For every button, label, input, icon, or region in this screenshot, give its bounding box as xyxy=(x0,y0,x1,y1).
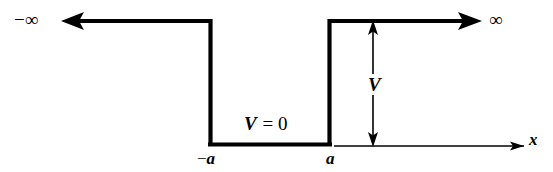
right-wall-position-label: a xyxy=(326,150,335,167)
left-wall-position-symbol: a xyxy=(207,149,216,168)
right-plateau-group xyxy=(330,12,482,30)
left-plateau-group xyxy=(61,12,209,30)
potential-well-drawing xyxy=(0,0,553,172)
negative-infinity-label: −∞ xyxy=(14,10,38,29)
left-wall-position-label: −a xyxy=(197,150,215,167)
well-depth-label: V xyxy=(366,74,383,95)
well-floor-value-label: V = 0 xyxy=(244,114,287,133)
positive-infinity-label: ∞ xyxy=(489,10,503,29)
left-wall-minus-sign: − xyxy=(197,149,207,168)
well-floor-value-symbol: V xyxy=(244,113,258,134)
x-axis-label: x xyxy=(529,131,538,148)
potential-well-figure: −∞ ∞ V = 0 V −a a x xyxy=(0,0,553,172)
x-axis-group xyxy=(334,142,524,151)
well-floor-value-equals: = 0 xyxy=(258,113,288,134)
